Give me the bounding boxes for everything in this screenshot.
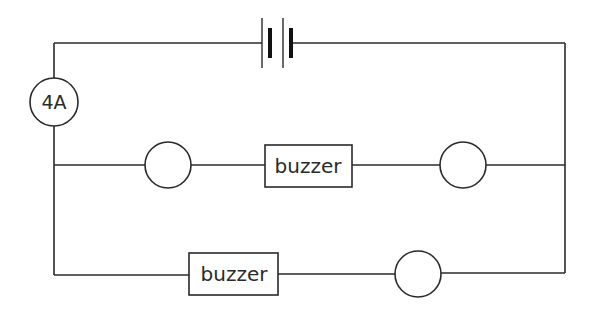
circuit-diagram: 4A buzzer buzzer <box>0 0 599 324</box>
battery-icon <box>262 18 291 68</box>
bottom-branch: buzzer <box>54 251 565 297</box>
ammeter-label: 4A <box>41 91 66 113</box>
lamp-icon <box>145 142 191 188</box>
lamp-icon <box>440 142 486 188</box>
buzzer-label: buzzer <box>275 154 343 178</box>
ammeter-icon: 4A <box>30 78 78 126</box>
middle-branch: buzzer <box>54 142 565 188</box>
lamp-icon <box>395 251 441 297</box>
buzzer-label: buzzer <box>201 262 269 286</box>
